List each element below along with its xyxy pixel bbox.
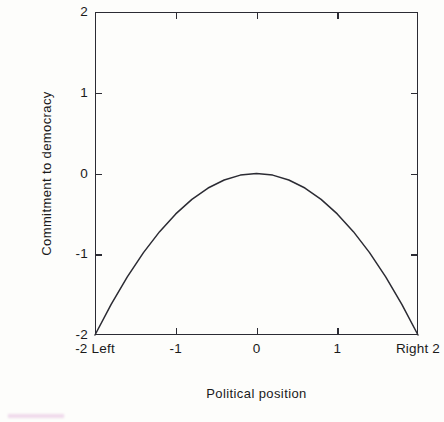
- x-axis-tick-label: 1: [297, 341, 377, 357]
- x-axis-tick-top: [257, 12, 258, 19]
- x-axis-tick-text: 0: [253, 341, 261, 357]
- x-axis-tick-text: -1: [170, 341, 182, 357]
- y-axis-tick-label: 1: [55, 86, 88, 100]
- x-axis-tick-label: -2 Left: [55, 341, 135, 357]
- x-axis-tick-text: Right 2: [396, 341, 440, 357]
- x-axis-title: Political position: [95, 386, 418, 401]
- x-axis-tick-text: 1: [333, 341, 341, 357]
- y-axis-tick-label: -2: [55, 328, 88, 342]
- chart-plot-area: [95, 12, 418, 335]
- y-axis-tick-label: 0: [55, 167, 88, 181]
- y-axis-tick-text: -1: [60, 247, 88, 261]
- y-axis-tick-right: [411, 174, 418, 175]
- x-axis-tick-bottom: [337, 328, 338, 335]
- x-axis-tick-bottom: [176, 328, 177, 335]
- y-axis-tick-left: [95, 174, 102, 175]
- y-axis-tick-left: [95, 93, 102, 94]
- data-series-curve: [95, 174, 418, 336]
- y-axis-title: Commitment to democracy: [39, 49, 54, 299]
- y-axis-tick-text: 0: [60, 167, 88, 181]
- x-axis-tick-top: [176, 12, 177, 19]
- x-axis-tick-top: [337, 12, 338, 19]
- x-axis-tick-label: Right 2: [378, 341, 444, 357]
- scan-artifact: [8, 414, 64, 418]
- y-axis-tick-text: 1: [60, 86, 88, 100]
- y-axis-tick-label: 2: [55, 5, 88, 19]
- y-axis-tick-right: [411, 254, 418, 255]
- x-axis-tick-bottom: [257, 328, 258, 335]
- y-axis-tick-right: [411, 93, 418, 94]
- y-axis-tick-label: -1: [55, 247, 88, 261]
- y-axis-tick-text: -2: [60, 328, 88, 342]
- y-axis-tick-left: [95, 254, 102, 255]
- y-axis-tick-text: 2: [60, 5, 88, 19]
- x-axis-tick-label: 0: [217, 341, 297, 357]
- x-axis-tick-text: -2 Left: [75, 341, 115, 357]
- x-axis-tick-label: -1: [136, 341, 216, 357]
